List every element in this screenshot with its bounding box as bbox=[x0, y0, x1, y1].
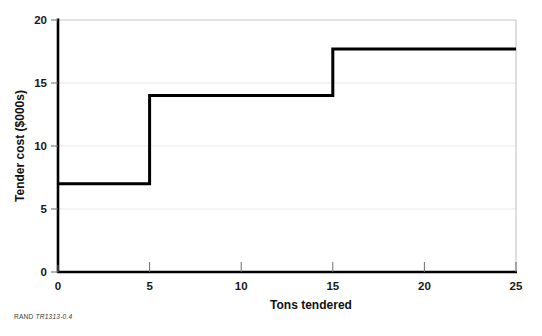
y-tick-label-0: 0 bbox=[41, 266, 47, 278]
y-tick-label-10: 10 bbox=[34, 140, 47, 152]
figure-container: 20 15 10 5 0 0 5 10 15 20 25 Tons tender… bbox=[0, 0, 542, 336]
y-tick-label-15: 15 bbox=[34, 77, 47, 89]
source-note-prefix: RAND bbox=[14, 313, 33, 320]
x-tick-label-0: 0 bbox=[55, 280, 61, 292]
source-note: RAND TR1313-0.4 bbox=[14, 313, 72, 320]
x-tick-label-20: 20 bbox=[418, 280, 431, 292]
x-axis-title: Tons tendered bbox=[270, 298, 352, 312]
y-axis-title: Tender cost ($000s) bbox=[13, 90, 27, 202]
x-tick-label-25: 25 bbox=[510, 280, 523, 292]
y-tick-label-5: 5 bbox=[41, 203, 48, 215]
x-tick-label-5: 5 bbox=[146, 280, 153, 292]
source-note-id: TR1313-0.4 bbox=[36, 313, 73, 320]
x-tick-label-10: 10 bbox=[235, 280, 248, 292]
x-tick-label-15: 15 bbox=[326, 280, 339, 292]
step-chart: 20 15 10 5 0 0 5 10 15 20 25 Tons tender… bbox=[0, 0, 542, 336]
y-tick-label-20: 20 bbox=[34, 14, 47, 26]
